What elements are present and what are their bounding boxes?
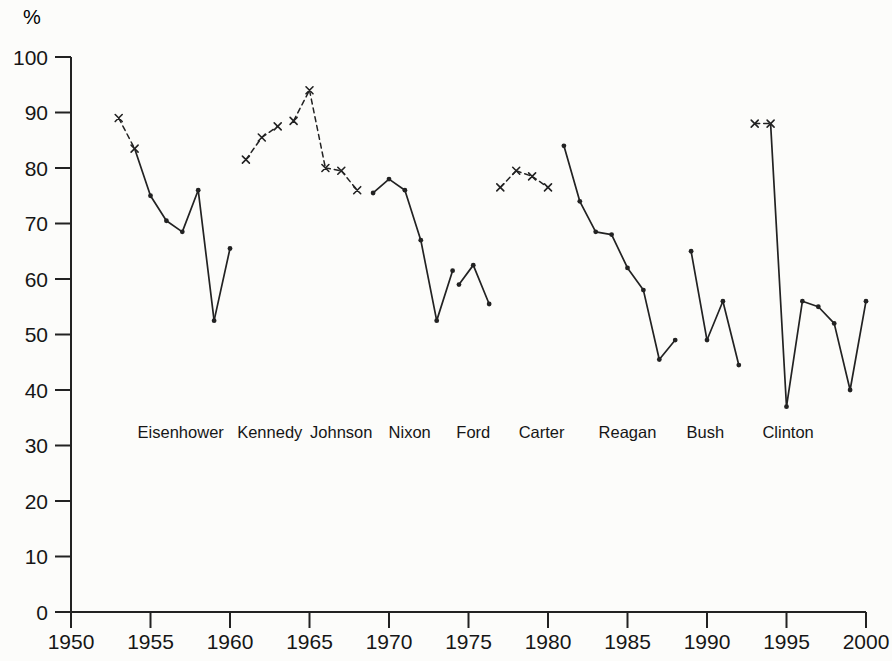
dot-marker-nixon [387, 177, 392, 182]
x-tick-label: 1970 [366, 630, 413, 653]
x-marker-carter [497, 184, 504, 191]
dot-marker-bush [705, 338, 710, 343]
y-tick-label: 70 [25, 212, 48, 235]
y-tick-label: 80 [25, 157, 48, 180]
series-segment-nixon [389, 179, 405, 190]
series-segment-clinton [834, 323, 850, 390]
series-segment-clinton [850, 301, 866, 390]
x-tick-label: 1955 [127, 630, 174, 653]
series-segment-eisenhower [166, 221, 182, 232]
y-tick-label: 30 [25, 434, 48, 457]
x-marker-johnson [354, 187, 361, 194]
dot-marker-eisenhower [196, 188, 201, 193]
dot-marker-nixon [403, 188, 408, 193]
dot-marker-nixon [418, 238, 423, 243]
x-marker-kennedy [274, 123, 281, 130]
dot-marker-reagan [609, 232, 614, 237]
dot-marker-reagan [577, 199, 582, 204]
x-tick-label: 1960 [207, 630, 254, 653]
x-tick-label: 1985 [604, 630, 651, 653]
dot-marker-reagan [657, 357, 662, 362]
series-segment-johnson [310, 90, 326, 168]
x-tick-label: 1965 [286, 630, 333, 653]
y-tick-label: 50 [25, 323, 48, 346]
dot-marker-reagan [625, 266, 630, 271]
series-segment-clinton [818, 307, 834, 324]
y-tick-label: 20 [25, 490, 48, 513]
y-tick-label: 40 [25, 379, 48, 402]
president-label-ford: Ford [456, 423, 490, 441]
dot-marker-eisenhower [212, 318, 217, 323]
y-tick-label: 100 [13, 46, 48, 69]
president-label-carter: Carter [519, 423, 565, 441]
series-segment-bush [691, 251, 707, 340]
president-label-reagan: Reagan [599, 423, 657, 441]
dot-marker-bush [689, 249, 694, 254]
x-marker-kennedy [258, 134, 265, 141]
series-segment-johnson [294, 90, 310, 121]
dot-marker-eisenhower [228, 246, 233, 251]
y-tick-label: 10 [25, 545, 48, 568]
series-segment-nixon [437, 271, 453, 321]
series-segment-eisenhower [151, 196, 167, 221]
series-segment-bush [707, 301, 723, 340]
series-segment-nixon [421, 240, 437, 320]
series-segment-clinton [771, 124, 787, 407]
dot-marker-reagan [673, 338, 678, 343]
dot-marker-eisenhower [148, 193, 153, 198]
dot-marker-ford [471, 263, 476, 268]
x-marker-eisenhower [115, 115, 122, 122]
series-segment-ford [473, 265, 489, 304]
y-tick-label: 60 [25, 268, 48, 291]
series-segment-reagan [659, 340, 675, 359]
dot-marker-reagan [641, 288, 646, 293]
x-marker-johnson [290, 117, 297, 124]
dot-marker-reagan [562, 143, 567, 148]
president-label-clinton: Clinton [762, 423, 813, 441]
series-segment-clinton [802, 301, 818, 307]
dot-marker-bush [736, 363, 741, 368]
series-segment-eisenhower [214, 248, 230, 320]
president-label-bush: Bush [687, 423, 725, 441]
series-segment-reagan [643, 290, 659, 359]
dot-marker-bush [721, 299, 726, 304]
dot-marker-eisenhower [180, 229, 185, 234]
series-segment-reagan [580, 201, 596, 232]
president-label-nixon: Nixon [389, 423, 431, 441]
series-segment-ford [459, 265, 473, 284]
presidential-support-line-chart: 0102030405060708090100195019551960196519… [0, 0, 892, 661]
x-marker-kennedy [242, 156, 249, 163]
dot-marker-clinton [848, 388, 853, 393]
dot-marker-clinton [864, 299, 869, 304]
dot-marker-clinton [784, 404, 789, 409]
series-segment-eisenhower [135, 149, 151, 196]
president-label-eisenhower: Eisenhower [138, 423, 225, 441]
series-segment-nixon [405, 190, 421, 240]
series-segment-clinton [787, 301, 803, 406]
x-tick-label: 2000 [843, 630, 890, 653]
dot-marker-nixon [450, 268, 455, 273]
series-segment-reagan [596, 232, 612, 235]
series-segment-eisenhower [119, 118, 135, 149]
x-tick-label: 1990 [684, 630, 731, 653]
dot-marker-nixon [434, 318, 439, 323]
x-tick-label: 1980 [525, 630, 572, 653]
dot-marker-ford [487, 302, 492, 307]
dot-marker-reagan [593, 229, 598, 234]
dot-marker-clinton [832, 321, 837, 326]
series-segment-nixon [373, 179, 389, 193]
x-tick-label: 1995 [763, 630, 810, 653]
series-segment-reagan [628, 268, 644, 290]
dot-marker-nixon [371, 191, 376, 196]
x-marker-carter [513, 167, 520, 174]
scanned-chart-page: % 01020304050607080901001950195519601965… [0, 0, 892, 661]
x-marker-carter [545, 184, 552, 191]
dot-marker-clinton [816, 304, 821, 309]
series-segment-reagan [612, 235, 628, 268]
x-marker-carter [529, 173, 536, 180]
y-tick-label: 0 [36, 601, 48, 624]
series-segment-eisenhower [182, 190, 198, 232]
series-segment-eisenhower [198, 190, 214, 320]
x-tick-label: 1975 [445, 630, 492, 653]
dot-marker-eisenhower [164, 218, 169, 223]
